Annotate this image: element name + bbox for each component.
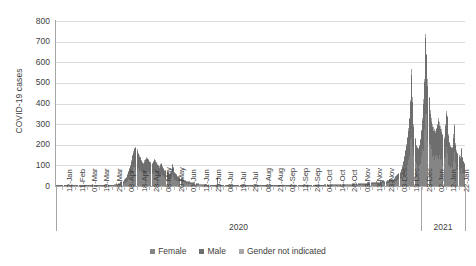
x-tick-label-19-Mar: 19-Mar (102, 169, 111, 192)
x-tick-label-13-Nov: 13-Nov (375, 168, 384, 192)
x-tick-label-04-Oct: 04-Oct (325, 170, 334, 192)
covid-cases-bar-chart: COVID-19 cases 0100200300400500600700800… (0, 0, 476, 266)
x-tick-label-24-Oct: 24-Oct (350, 170, 359, 192)
x-tick-label-29-Jul: 29-Jul (251, 172, 260, 192)
x-tick-label-12-Sep: 12-Sep (301, 168, 310, 192)
legend-swatch-icon (239, 249, 244, 254)
x-tick-label-20-May: 20-May (177, 167, 186, 192)
legend-label: Male (207, 246, 225, 256)
legend-swatch-icon (150, 249, 155, 254)
x-group-label-2020: 2020 (56, 222, 421, 232)
x-tick-label-03-Dec: 03-Dec (400, 168, 409, 192)
x-tick-label-08-Aug: 08-Aug (264, 168, 273, 192)
x-tick-label-22-Jan: 22-Jan (462, 169, 471, 192)
legend-label: Female (158, 246, 186, 256)
x-group-label-2021: 2021 (421, 222, 465, 232)
x-tick-label-23-Nov: 23-Nov (387, 168, 396, 192)
legend-item-female[interactable]: Female (150, 246, 186, 256)
legend-swatch-icon (199, 249, 204, 254)
x-tick-label-21-Aug: 21-Aug (276, 168, 285, 192)
x-tick-label-14-Oct: 14-Oct (338, 170, 347, 192)
x-tick-label-13-Dec: 13-Dec (412, 168, 421, 192)
x-tick-label-01-Jun: 01-Jun (189, 169, 198, 192)
x-group-separator-end (465, 186, 466, 231)
x-tick-label-25-Jun: 25-Jun (214, 169, 223, 192)
x-tick-label-28-Apr: 28-Apr (152, 170, 161, 192)
chart-legend: FemaleMaleGender not indicated (0, 246, 476, 256)
x-tick-label-12-Jun: 12-Jun (202, 169, 211, 192)
legend-item-gender-not-indicated[interactable]: Gender not indicated (239, 246, 326, 256)
x-tick-label-12-Jan: 12-Jan (449, 169, 458, 192)
x-tick-label-24-Sep: 24-Sep (313, 168, 322, 192)
x-tick-label-23-Dec: 23-Dec (425, 168, 434, 192)
x-tick-label-29-Mar: 29-Mar (115, 169, 124, 192)
x-tick-label-07-Mar: 07-Mar (90, 169, 99, 192)
x-tick-label-08-Jul: 08-Jul (226, 172, 235, 192)
x-tick-label-12-Jan: 12-Jan (65, 169, 74, 192)
x-tick-label-08-Apr: 08-Apr (127, 170, 136, 192)
x-tick-label-02-Sep: 02-Sep (288, 168, 297, 192)
x-tick-label-11-Feb: 11-Feb (78, 169, 87, 192)
legend-item-male[interactable]: Male (199, 246, 225, 256)
x-tick-label-02-Jan: 02-Jan (437, 169, 446, 192)
x-tick-label-18-Apr: 18-Apr (140, 170, 149, 192)
x-tick-label-08-May: 08-May (164, 167, 173, 192)
x-tick-label-03-Nov: 03-Nov (363, 168, 372, 192)
legend-label: Gender not indicated (247, 246, 326, 256)
x-tick-label-19-Jul: 19-Jul (239, 172, 248, 192)
